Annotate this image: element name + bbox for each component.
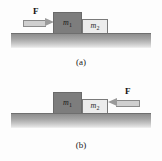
block-m2-panel-b: m2 <box>82 99 108 114</box>
block-m2-label: m2 <box>91 22 100 31</box>
force-label-a: F <box>33 7 39 16</box>
caption-b: (b) <box>0 140 162 150</box>
arrow-shaft <box>116 100 140 107</box>
force-arrow-left-icon <box>108 98 140 107</box>
block-m1-panel-a: m1 <box>53 12 82 34</box>
caption-a: (a) <box>0 57 162 67</box>
block-m2-label: m2 <box>91 102 100 111</box>
panel-a: F m1 m2 (a) <box>0 0 162 80</box>
panel-b: F m1 m2 (b) <box>0 80 162 160</box>
block-m1-label: m1 <box>63 19 72 28</box>
force-arrow-right-icon <box>23 18 54 27</box>
block-m1-label: m1 <box>63 99 72 108</box>
ground-hatching <box>11 114 151 128</box>
block-m1-panel-b: m1 <box>53 92 82 114</box>
force-label-b: F <box>125 87 131 96</box>
arrow-shaft <box>23 20 46 27</box>
ground-hatching <box>11 34 151 48</box>
arrow-head <box>108 98 117 106</box>
block-m2-panel-a: m2 <box>82 19 108 34</box>
physics-figure: F m1 m2 (a) F m1 m2 (b) <box>0 0 162 161</box>
